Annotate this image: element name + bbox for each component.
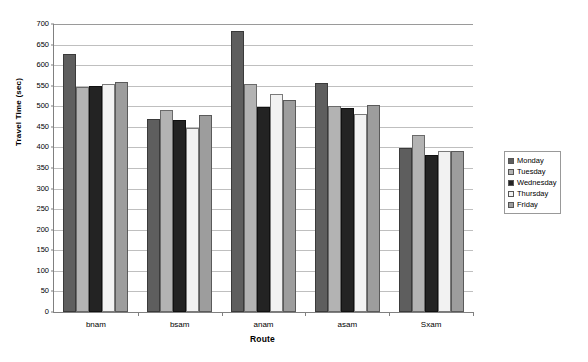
x-tick-label: Sxam — [421, 320, 441, 329]
y-tick-label: 600 — [9, 61, 49, 69]
bar — [270, 94, 283, 312]
bar — [89, 86, 102, 312]
legend-swatch-icon — [508, 169, 514, 175]
y-tick-label: 200 — [9, 226, 49, 234]
bar — [76, 87, 89, 312]
x-tick-label: anam — [253, 320, 273, 329]
legend-swatch-icon — [508, 180, 514, 186]
legend-label: Thursday — [517, 189, 548, 198]
legend-label: Wednesday — [517, 178, 556, 187]
bar — [451, 151, 464, 312]
y-tick-label: 0 — [9, 308, 49, 316]
bar-groups — [54, 24, 473, 312]
bar — [425, 155, 438, 312]
bar-group — [54, 24, 138, 312]
legend: MondayTuesdayWednesdayThursdayFriday — [504, 151, 561, 214]
x-tick-label: asam — [338, 320, 358, 329]
bar — [160, 110, 173, 312]
legend-item: Monday — [508, 155, 556, 166]
bar — [328, 106, 341, 312]
x-tick-label: bnam — [86, 320, 106, 329]
bar — [147, 119, 160, 312]
bar — [438, 151, 451, 312]
y-tick-label: 550 — [9, 82, 49, 90]
y-tick-label: 150 — [9, 246, 49, 254]
legend-swatch-icon — [508, 158, 514, 164]
legend-swatch-icon — [508, 202, 514, 208]
bar-chart: Travel Time (sec) 0501001502002503003504… — [0, 0, 588, 362]
legend-label: Monday — [517, 156, 544, 165]
x-tick-mark — [389, 312, 390, 316]
y-tick-label: 500 — [9, 102, 49, 110]
bar — [367, 105, 380, 312]
legend-label: Friday — [517, 200, 538, 209]
x-tick-mark — [305, 312, 306, 316]
x-tick-mark — [473, 312, 474, 316]
legend-item: Thursday — [508, 188, 556, 199]
bar — [315, 83, 328, 312]
x-tick-label: bsam — [170, 320, 190, 329]
bar — [186, 128, 199, 312]
legend-swatch-icon — [508, 191, 514, 197]
bar — [244, 84, 257, 312]
bar — [341, 108, 354, 312]
bar-group — [222, 24, 306, 312]
bar — [257, 107, 270, 312]
bar — [354, 114, 367, 312]
bar — [173, 120, 186, 312]
y-tick-label: 50 — [9, 287, 49, 295]
y-tick-label: 700 — [9, 20, 49, 28]
y-tick-label: 650 — [9, 41, 49, 49]
x-axis-title: Route — [53, 334, 472, 344]
bar — [102, 84, 115, 312]
bar-group — [138, 24, 222, 312]
bar-group — [305, 24, 389, 312]
legend-label: Tuesday — [517, 167, 546, 176]
bar — [63, 54, 76, 312]
y-tick-label: 100 — [9, 267, 49, 275]
bar — [231, 31, 244, 312]
bar — [399, 148, 412, 312]
bar-group — [389, 24, 473, 312]
x-tick-mark — [222, 312, 223, 316]
y-tick-label: 300 — [9, 185, 49, 193]
y-tick-label: 350 — [9, 164, 49, 172]
bar — [283, 100, 296, 312]
legend-item: Friday — [508, 199, 556, 210]
x-tick-mark — [138, 312, 139, 316]
legend-item: Wednesday — [508, 177, 556, 188]
plot-area: 0501001502002503003504004505005506006507… — [53, 24, 473, 313]
legend-item: Tuesday — [508, 166, 556, 177]
y-tick-label: 250 — [9, 205, 49, 213]
y-tick-label: 450 — [9, 123, 49, 131]
bar — [412, 135, 425, 312]
bar — [199, 115, 212, 312]
y-tick-label: 400 — [9, 143, 49, 151]
bar — [115, 82, 128, 312]
